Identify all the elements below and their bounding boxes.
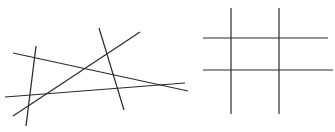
grid-lines-figure [203,8,333,114]
intersecting-lines-figure [5,28,188,126]
line-segment [99,28,124,110]
line-segment [5,83,185,97]
diagram-canvas [0,0,335,132]
